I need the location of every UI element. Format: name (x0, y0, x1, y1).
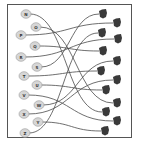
left-node-q[interactable]: Q (30, 42, 40, 51)
right-node-r6-badge-icon[interactable] (113, 56, 121, 66)
matching-diagram: NOPQRSTUVWXYZ (0, 0, 142, 146)
left-node-label: O (34, 25, 38, 30)
right-node-r2-badge-icon[interactable] (113, 18, 121, 28)
left-node-x[interactable]: X (19, 110, 29, 119)
left-node-label: R (19, 55, 22, 60)
right-node-r4-badge-icon[interactable] (114, 34, 122, 44)
right-node-r7-badge-icon[interactable] (97, 66, 105, 76)
right-nodes (97, 9, 122, 136)
left-nodes: NOPQRSTUVWXYZ (16, 10, 44, 138)
left-node-label: P (20, 33, 23, 38)
left-node-label: Y (36, 120, 40, 125)
left-node-label: T (23, 74, 26, 79)
right-node-r10-badge-icon[interactable] (113, 98, 121, 108)
left-node-y[interactable]: Y (33, 118, 43, 127)
right-node-r11-badge-icon[interactable] (102, 107, 110, 117)
left-node-r[interactable]: R (16, 53, 26, 62)
left-node-label: U (35, 83, 38, 88)
connection-line-s (41, 14, 99, 67)
left-node-z[interactable]: Z (20, 129, 30, 138)
left-node-label: N (24, 12, 27, 17)
left-node-v[interactable]: V (19, 91, 29, 100)
left-node-label: W (37, 103, 42, 108)
right-node-r8-badge-icon[interactable] (113, 75, 121, 85)
connection-line-u (41, 85, 102, 90)
connection-line-y (42, 122, 101, 131)
left-node-label: S (36, 65, 39, 70)
connection-line-o (40, 27, 113, 103)
right-node-r13-badge-icon[interactable] (101, 126, 109, 136)
right-node-r5-badge-icon[interactable] (99, 46, 107, 56)
left-node-p[interactable]: P (16, 31, 26, 40)
left-node-label: Z (24, 131, 27, 136)
left-node-label: Q (33, 44, 37, 49)
left-node-o[interactable]: O (31, 23, 41, 32)
left-node-u[interactable]: U (32, 81, 42, 90)
left-node-label: X (22, 112, 25, 117)
left-node-w[interactable]: W (34, 101, 44, 110)
right-node-r1-badge-icon[interactable] (99, 9, 107, 19)
right-node-r9-badge-icon[interactable] (102, 85, 110, 95)
right-node-r12-badge-icon[interactable] (113, 116, 121, 126)
right-node-r3-badge-icon[interactable] (98, 28, 106, 38)
left-node-t[interactable]: T (19, 72, 29, 81)
left-node-n[interactable]: N (21, 10, 31, 19)
left-node-s[interactable]: S (32, 63, 42, 72)
